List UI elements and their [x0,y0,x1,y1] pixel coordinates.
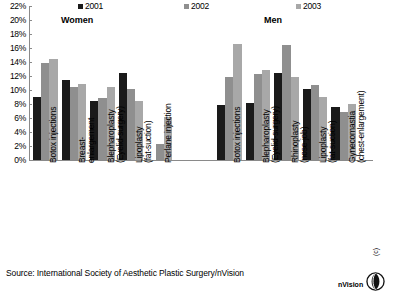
y-axis-tick-mark [29,118,32,119]
bar [246,103,254,160]
y-axis-tick-label: 14% [10,58,26,67]
bar [62,80,70,161]
y-axis-tick-label: 10% [10,86,26,95]
y-axis-tick-mark [29,34,32,35]
x-axis-category-label: Gynecomastia (chest-enlargement) [348,91,366,163]
logo-text: nVision [338,281,363,288]
x-axis-category-label: Botox injections [233,107,242,163]
source-note: Source: International Society of Aesthet… [6,268,244,278]
y-axis-tick-label: 16% [10,44,26,53]
y-axis-tick-label: 6% [14,114,26,123]
y-axis-tick-mark [29,76,32,77]
y-axis-tick-label: 20% [10,16,26,25]
bar [217,105,225,160]
y-axis-tick-mark [29,90,32,91]
x-axis-category-label: Perlane injection [164,104,173,163]
y-axis-tick-label: 22% [10,2,26,11]
y-axis-tick-label: 8% [14,100,26,109]
copyright-mark: (c) [372,248,379,256]
y-axis-tick-label: 12% [10,72,26,81]
x-axis-category-label: Blepharoplasty (Eyelid-surgery) [107,106,125,163]
x-axis-category-label: Lipoplasty (fat-suction) [319,121,337,163]
y-axis-tick-label: 2% [14,142,26,151]
y-axis-tick-label: 18% [10,30,26,39]
x-axis-category-label: Rhinoplasty (nose-job) [291,121,309,163]
y-axis-tick-mark [29,20,32,21]
y-axis-tick-mark [29,48,32,49]
nvision-mark-icon [366,272,385,291]
y-axis-tick-mark [29,6,32,7]
y-axis-tick-mark [29,132,32,133]
y-axis-tick-mark [29,104,32,105]
x-axis-category-label: Botox injections [49,107,58,163]
chart-container: 2001 2002 2003 Women Men 22%20%18%16%14%… [0,0,394,298]
x-axis-category-label: Lipoplasty (fat-suction) [135,121,153,163]
bar [33,97,41,160]
x-axis-category-label: Blepharoplasty (Eyelid-surgery) [262,106,280,163]
y-axis-tick-mark [29,62,32,63]
y-axis-tick-label: 0% [14,156,26,165]
y-axis-tick-label: 4% [14,128,26,137]
x-axis-category-label: Breast- enlargement [78,118,96,163]
nvision-logo: (c) nVision [338,272,390,294]
y-axis-tick-mark [29,146,32,147]
